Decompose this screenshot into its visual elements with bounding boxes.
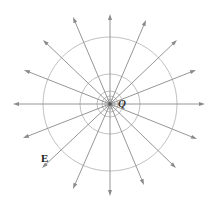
arrowhead-icon <box>142 20 146 26</box>
charge-dot <box>108 102 112 106</box>
charge-label: Q <box>118 97 126 109</box>
arrowhead-icon <box>191 135 197 139</box>
arrowhead-icon <box>140 179 144 185</box>
field-line <box>44 104 110 166</box>
arrowhead-icon <box>108 190 112 196</box>
field-line <box>74 20 110 104</box>
point-charge-icon <box>108 102 112 106</box>
arrowhead-icon <box>24 70 30 74</box>
arrowhead-icon <box>199 102 205 106</box>
arrowhead-icon <box>190 70 196 74</box>
arrowhead-icon <box>108 14 112 20</box>
field-diagram <box>0 0 215 209</box>
arrowhead-icon <box>73 183 77 189</box>
field-label: E <box>41 152 48 164</box>
field-line <box>45 42 110 104</box>
field-line <box>110 42 175 104</box>
arrowhead-icon <box>13 102 19 106</box>
field-line <box>110 23 145 104</box>
field-line <box>110 104 194 138</box>
field-line <box>27 71 110 104</box>
arrowhead-icon <box>73 17 77 23</box>
field-line <box>110 104 174 166</box>
arrowhead-icon <box>23 134 29 138</box>
